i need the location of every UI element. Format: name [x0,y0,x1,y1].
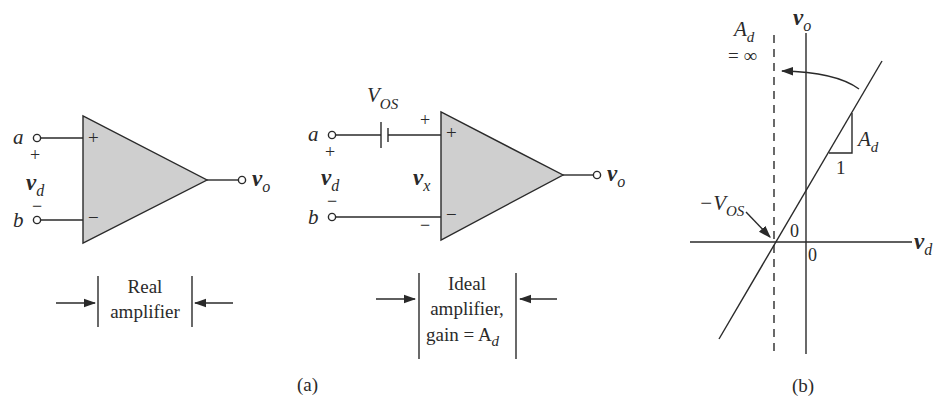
ideal-label-line1: Ideal [448,273,486,294]
minus-input: − [88,207,99,228]
vd-minus: − [32,196,42,216]
label-vd: vd [26,170,45,199]
ideal-label-line2: amplifier, [430,298,504,319]
vd-plus: + [325,142,335,162]
caption-b: (b) [792,375,814,397]
gain-rotation-arrow [782,71,859,89]
vd-plus: + [30,145,40,165]
terminal-vo [238,176,245,183]
vx-plus: + [420,110,430,130]
terminal-a [328,131,335,138]
real-label-line2: amplifier [110,301,180,322]
origin-y-label: 0 [790,221,799,241]
ideal-amplifier: a b + − vd VOS + − vx + − vo Ideal ampli… [308,83,625,359]
vd-minus: − [327,191,337,211]
transfer-line [719,61,882,339]
ad-infinity-eq: = ∞ [728,45,757,66]
terminal-b [33,216,40,223]
real-label-line1: Real [128,276,163,297]
slope-rise-label: Ad [856,127,879,155]
slope-run-label: 1 [836,157,846,178]
terminal-vo [593,171,600,178]
label-b: b [13,208,24,232]
neg-vos-label: −VOS [699,191,745,219]
opamp-triangle [441,112,563,240]
caption-a: (a) [297,374,318,396]
y-axis-label: vo [793,5,811,34]
real-amplifier: a b + − vd + − vo Real amplifier [13,116,270,327]
label-vx: vx [413,165,430,194]
transfer-characteristic: vo vd Ad = ∞ Ad 1 −VOS 0 0 [690,5,933,356]
terminal-b [328,213,335,220]
opamp-triangle [83,116,207,243]
ideal-label-line3: gain = Ad [426,324,500,349]
op-amp-offset-diagram: a b + − vd + − vo Real amplifier a b + −… [0,0,942,406]
terminal-a [33,134,40,141]
label-a: a [308,122,319,146]
minus-input: − [446,204,457,225]
origin-x-label: 0 [808,245,817,265]
label-a: a [13,125,24,149]
label-b: b [308,205,319,229]
label-vo: vo [252,166,270,195]
ad-infinity-label: Ad [732,17,755,45]
x-axis-label: vd [914,229,933,258]
label-vd: vd [321,165,340,194]
label-vo: vo [607,161,625,190]
plus-input: + [446,122,457,143]
neg-vos-pointer [746,212,770,237]
plus-input: + [88,127,99,148]
vx-minus: − [420,215,430,235]
label-vos: VOS [367,83,399,112]
